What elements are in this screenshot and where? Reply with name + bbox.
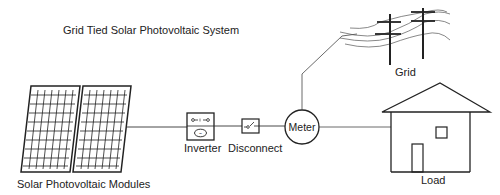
svg-text:~: ~: [199, 130, 202, 136]
wire-meter-grid: [302, 34, 357, 110]
load-label: Load: [421, 174, 445, 186]
solar-panel-icon: [21, 86, 131, 172]
utility-pole-icon: [340, 8, 450, 65]
house-icon: [382, 83, 490, 172]
switch-icon: [242, 119, 259, 133]
inverter-label: Inverter: [184, 142, 222, 154]
diagram-title: Grid Tied Solar Photovoltaic System: [63, 24, 239, 36]
solar-modules-label: Solar Photovoltaic Modules: [17, 178, 151, 190]
disconnect-label: Disconnect: [228, 142, 282, 154]
meter-icon: Meter: [285, 110, 319, 144]
diagram-canvas: Grid Tied Solar Photovoltaic System: [0, 0, 500, 195]
inverter-icon: ~: [187, 113, 214, 140]
grid-label: Grid: [395, 66, 416, 78]
meter-label: Meter: [289, 121, 316, 133]
